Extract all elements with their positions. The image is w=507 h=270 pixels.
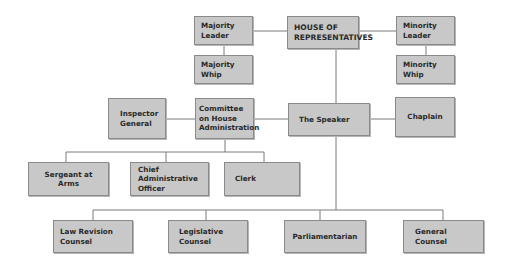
parliamentarian-box: Parliamentarian <box>284 220 366 253</box>
chaplain-box: Chaplain <box>395 97 455 137</box>
minority-leader-box: Minority Leader <box>396 16 455 45</box>
majority-whip-label: Majority Whip <box>201 60 235 79</box>
committee-label: Committee on House Administration <box>199 104 259 133</box>
law-revision-counsel-box: Law Revision Counsel <box>53 220 133 253</box>
legislative-label: Legislative Counsel <box>179 227 223 246</box>
inspector-general-label: Inspector General <box>120 109 158 128</box>
chaplain-label: Chaplain <box>407 112 442 122</box>
committee-house-administration-box: Committee on House Administration <box>195 98 254 139</box>
majority-leader-label: Majority Leader <box>201 21 235 40</box>
speaker-box: The Speaker <box>288 103 370 136</box>
inspector-general-box: Inspector General <box>108 98 166 139</box>
law-revision-label: Law Revision Counsel <box>60 227 113 246</box>
house-of-representatives-box: HOUSE OF REPRESENTATIVES <box>287 16 359 49</box>
minority-whip-label: Minority Whip <box>403 60 437 79</box>
chief-administrative-officer-box: Chief Administrative Officer <box>130 162 209 196</box>
cao-label: Chief Administrative Officer <box>138 165 198 194</box>
general-counsel-box: General Counsel <box>403 220 484 253</box>
minority-whip-box: Minority Whip <box>396 55 455 84</box>
majority-whip-box: Majority Whip <box>194 55 253 84</box>
majority-leader-box: Majority Leader <box>194 16 253 45</box>
sergeant-label: Sergeant at Arms <box>35 170 102 189</box>
sergeant-at-arms-box: Sergeant at Arms <box>28 162 109 196</box>
clerk-label: Clerk <box>235 174 256 184</box>
minority-leader-label: Minority Leader <box>403 21 437 40</box>
general-counsel-label: General Counsel <box>415 227 447 246</box>
parliamentarian-label: Parliamentarian <box>293 232 358 242</box>
speaker-label: The Speaker <box>299 115 349 125</box>
house-label: HOUSE OF REPRESENTATIVES <box>294 23 373 42</box>
clerk-box: Clerk <box>224 162 300 196</box>
legislative-counsel-box: Legislative Counsel <box>168 220 248 253</box>
